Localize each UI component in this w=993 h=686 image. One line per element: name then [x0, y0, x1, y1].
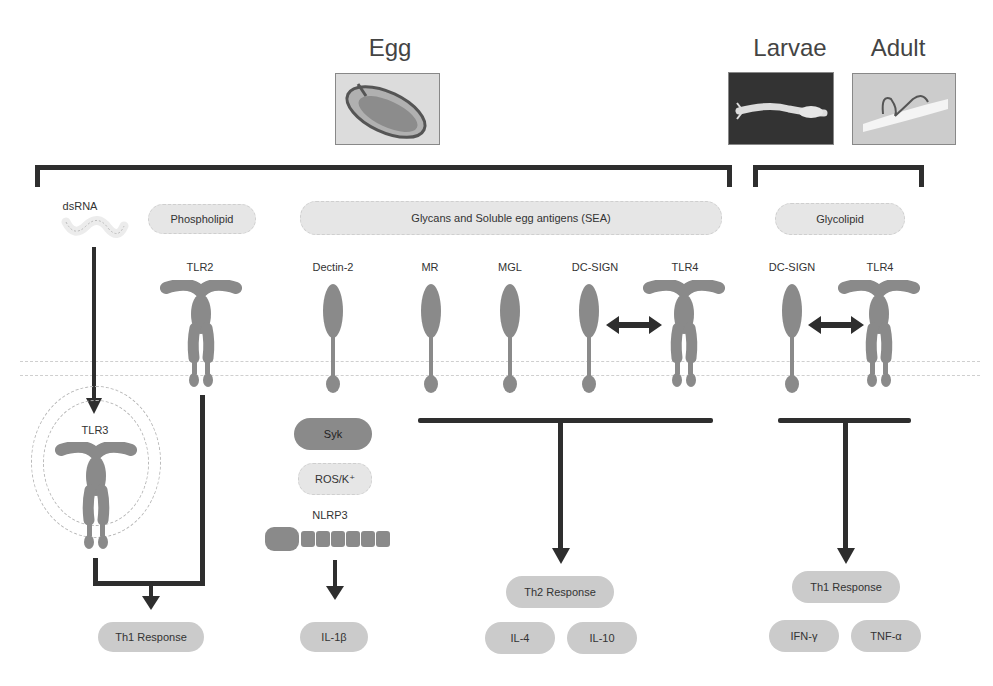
il1b-pill: IL-1β: [300, 622, 368, 652]
dsrna-arrow-shaft: [92, 247, 96, 402]
mgl-label: MGL: [493, 261, 527, 273]
th1-response-right-pill: Th1 Response: [792, 571, 900, 603]
tlr3-receptor-icon: [55, 442, 137, 550]
dcsign-adult-receptor-icon: [781, 283, 803, 395]
nlrp3-arrow-shaft: [333, 560, 337, 588]
tlr4-adult-label: TLR4: [855, 261, 905, 273]
glycans-sea-pill: Glycans and Soluble egg antigens (SEA): [300, 201, 722, 235]
tlr2-label: TLR2: [175, 261, 225, 273]
nlrp3-label: NLRP3: [300, 509, 360, 521]
syk-pill: Syk: [294, 418, 372, 450]
il4-pill: IL-4: [485, 622, 555, 654]
dcsign-egg-receptor-icon: [578, 283, 600, 395]
dectin2-receptor-icon: [322, 283, 344, 395]
il10-pill: IL-10: [567, 622, 637, 654]
stage-label-adult: Adult: [848, 34, 948, 62]
adult-bracket-top: [753, 165, 924, 170]
mgl-receptor-icon: [499, 283, 521, 395]
th1-right-arrow-head-icon: [837, 548, 855, 564]
th2-arrow-head-icon: [552, 548, 570, 564]
nlrp3-arrow-head-icon: [326, 586, 344, 600]
th2-response-pill: Th2 Response: [506, 576, 614, 608]
dcsign-tlr4-egg-double-arrow-icon: [606, 316, 662, 334]
egg-bracket-left: [35, 165, 40, 187]
ifn-gamma-pill: IFN-γ: [769, 620, 839, 652]
stage-label-larvae: Larvae: [740, 34, 840, 62]
stage-label-egg: Egg: [335, 34, 445, 62]
th2-horizontal-bar: [418, 418, 713, 423]
dsrna-label: dsRNA: [55, 200, 105, 212]
egg-bracket-top: [35, 165, 732, 170]
th1-right-arrow-shaft: [843, 420, 848, 552]
th1-left-arrow-head-icon: [142, 596, 160, 610]
adult-bracket-right: [919, 165, 924, 187]
tlr2-down-connector: [200, 395, 205, 585]
adult-image: [852, 73, 956, 145]
tlr2-receptor-icon: [160, 280, 242, 388]
phospholipid-pill: Phospholipid: [148, 204, 256, 234]
ros-k-pill: ROS/K⁺: [298, 463, 372, 495]
dectin2-label: Dectin-2: [298, 261, 368, 273]
egg-bracket-right: [727, 165, 732, 187]
glycolipid-pill: Glycolipid: [775, 203, 905, 235]
tnf-alpha-pill: TNF-α: [851, 620, 921, 652]
dcsign-adult-label: DC-SIGN: [757, 261, 827, 273]
th2-arrow-shaft: [558, 420, 563, 552]
dcsign-egg-label: DC-SIGN: [560, 261, 630, 273]
mr-label: MR: [415, 261, 445, 273]
egg-image: [335, 73, 440, 145]
dcsign-tlr4-adult-double-arrow-icon: [808, 316, 864, 334]
tlr4-egg-label: TLR4: [660, 261, 710, 273]
adult-bracket-left: [753, 165, 758, 187]
nlrp3-complex-icon: [265, 527, 397, 551]
larvae-image: [728, 72, 834, 145]
dsrna-icon: [60, 212, 130, 244]
tlr4-adult-receptor-icon: [838, 280, 920, 388]
tlr4-egg-receptor-icon: [643, 280, 725, 388]
mr-receptor-icon: [420, 283, 442, 395]
th1-response-left-pill: Th1 Response: [98, 622, 204, 652]
tlr3-label: TLR3: [70, 424, 120, 436]
